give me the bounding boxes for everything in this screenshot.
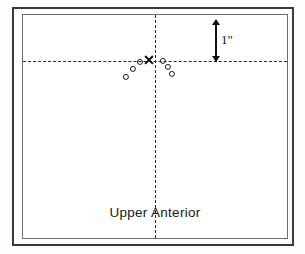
figure-caption: Upper Anterior: [23, 205, 287, 220]
data-point-circle: [160, 58, 166, 64]
data-point-circle: [137, 59, 143, 65]
data-point-circle: [123, 74, 129, 80]
data-point-circle: [169, 71, 175, 77]
scale-bar-annotation: 1": [206, 19, 246, 69]
scatter-plot-area: 1" Upper Anterior: [23, 15, 287, 238]
figure-root: 1" Upper Anterior: [0, 0, 305, 254]
arrow-down-icon: [212, 56, 220, 62]
data-point-circle: [130, 66, 136, 72]
data-point-cross-icon: [144, 55, 154, 65]
scale-bar-label: 1": [221, 32, 233, 48]
data-point-circle: [165, 64, 171, 70]
